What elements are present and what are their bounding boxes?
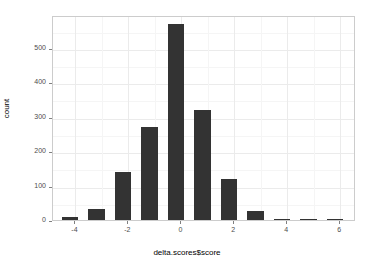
y-tick-mark — [49, 118, 52, 119]
histogram-bar — [88, 209, 104, 220]
x-tick-mark — [127, 221, 128, 224]
histogram-bar — [221, 179, 237, 220]
x-tick-label: 4 — [266, 226, 306, 233]
gridline-minor-vertical — [314, 17, 315, 220]
histogram-bar — [168, 24, 184, 220]
gridline-minor-horizontal — [53, 33, 354, 34]
x-tick-label: 2 — [213, 226, 253, 233]
x-tick-mark — [74, 221, 75, 224]
y-tick-label: 500 — [12, 44, 46, 51]
y-axis-title: count — [2, 79, 11, 139]
gridline-minor-vertical — [102, 17, 103, 220]
x-tick-mark — [233, 221, 234, 224]
histogram-bar — [62, 217, 78, 220]
y-tick-label: 400 — [12, 78, 46, 85]
histogram-bar — [247, 211, 263, 220]
histogram-bar — [300, 219, 316, 220]
histogram-bar — [194, 110, 210, 220]
histogram-bar — [327, 219, 343, 220]
y-tick-mark — [49, 83, 52, 84]
x-tick-mark — [286, 221, 287, 224]
x-tick-label: -4 — [54, 226, 94, 233]
x-tick-mark — [339, 221, 340, 224]
y-tick-label: 300 — [12, 113, 46, 120]
y-tick-mark — [49, 152, 52, 153]
y-tick-mark — [49, 187, 52, 188]
plot-panel — [52, 16, 355, 221]
x-tick-label: 0 — [160, 226, 200, 233]
x-tick-label: -2 — [107, 226, 147, 233]
x-tick-label: 6 — [319, 226, 359, 233]
gridline-major-vertical — [75, 17, 76, 220]
histogram-bar — [141, 127, 157, 220]
y-tick-label: 100 — [12, 182, 46, 189]
x-axis-title: delta.scores$score — [0, 248, 374, 257]
y-tick-label: 0 — [12, 216, 46, 223]
y-tick-mark — [49, 221, 52, 222]
histogram-bar — [115, 172, 131, 220]
y-tick-label: 200 — [12, 147, 46, 154]
gridline-major-horizontal — [53, 84, 354, 85]
gridline-minor-horizontal — [53, 67, 354, 68]
gridline-minor-vertical — [261, 17, 262, 220]
x-tick-mark — [180, 221, 181, 224]
histogram-bar — [274, 219, 290, 220]
gridline-major-horizontal — [53, 50, 354, 51]
histogram-figure: count delta.scores$score 010020030040050… — [0, 0, 374, 273]
gridline-minor-horizontal — [53, 101, 354, 102]
gridline-major-vertical — [287, 17, 288, 220]
y-tick-mark — [49, 49, 52, 50]
gridline-major-vertical — [340, 17, 341, 220]
